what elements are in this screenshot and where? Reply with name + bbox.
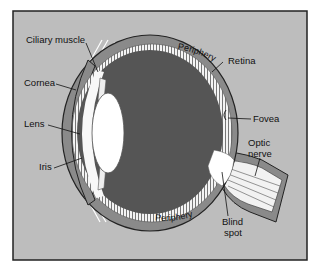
fovea-label: Fovea (253, 113, 280, 124)
iris-label: Iris (39, 161, 52, 172)
retina-label: Retina (228, 55, 256, 66)
eye-anatomy-diagram: Periphery Periphery Ciliary muscle Corne… (0, 0, 318, 273)
blind-spot-label-line2: spot (224, 227, 242, 238)
lens-label: Lens (24, 118, 45, 129)
ciliary-muscle-label: Ciliary muscle (26, 34, 85, 45)
optic-nerve-label-line1: Optic (248, 137, 270, 148)
blind-spot-label-line1: Blind (222, 216, 243, 227)
optic-nerve-label-line2: nerve (248, 148, 272, 159)
cornea-label: Cornea (24, 77, 56, 88)
lens (92, 93, 124, 173)
